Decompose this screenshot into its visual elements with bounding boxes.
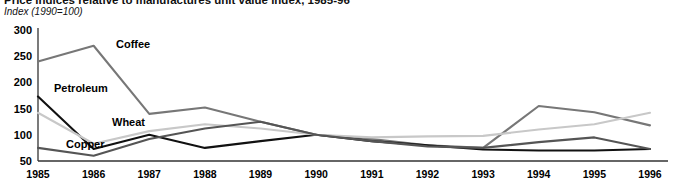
x-tick-label: 1985 [15, 169, 61, 180]
x-tick-label: 1996 [627, 169, 673, 180]
y-tick-label: 200 [2, 77, 32, 88]
y-tick-label: 300 [2, 25, 32, 36]
x-tick-label: 1995 [571, 169, 617, 180]
x-tick-label: 1987 [126, 169, 172, 180]
series-label-copper: Copper [66, 139, 105, 150]
x-tick-label: 1988 [182, 169, 228, 180]
x-tick-label: 1994 [516, 169, 562, 180]
x-tick-label: 1991 [349, 169, 395, 180]
x-tick-label: 1993 [460, 169, 506, 180]
chart-figure: Price indices relative to manufactures u… [0, 0, 675, 192]
x-tick-label: 1990 [293, 169, 339, 180]
x-tick-label: 1989 [238, 169, 284, 180]
line-chart-plot [0, 0, 675, 192]
series-lines-group [38, 46, 650, 156]
series-line-coffee [38, 46, 650, 148]
x-tick-label: 1986 [71, 169, 117, 180]
y-tick-label: 100 [2, 130, 32, 141]
y-tick-label: 50 [2, 156, 32, 167]
y-tick-label: 250 [2, 51, 32, 62]
y-tick-label: 150 [2, 104, 32, 115]
series-label-petroleum: Petroleum [54, 83, 108, 94]
series-label-wheat: Wheat [112, 117, 145, 128]
x-tick-label: 1992 [404, 169, 450, 180]
series-label-coffee: Coffee [116, 39, 150, 50]
